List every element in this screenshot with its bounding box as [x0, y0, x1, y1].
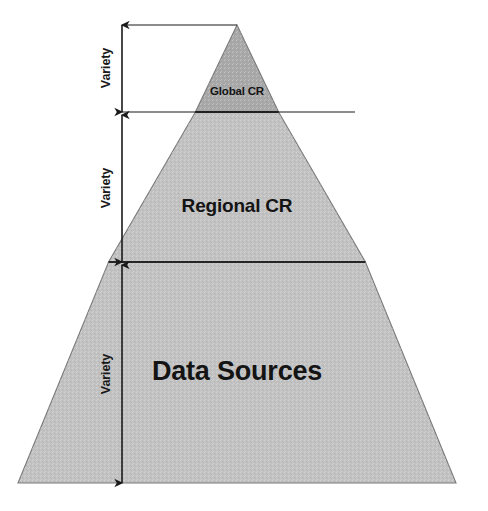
- dimension-label-variety-2-text: Variety: [99, 168, 113, 208]
- pyramid-diagram-canvas: Global CR Regional CR Data Sources Varie…: [0, 0, 488, 511]
- dimension-label-variety-1-text: Variety: [99, 48, 113, 88]
- pyramid-layer-global-cr: [195, 25, 278, 112]
- dimension-label-variety-1: Variety: [86, 61, 126, 75]
- layer-label-data-sources: Data Sources: [152, 356, 322, 387]
- dimension-label-variety-3-text: Variety: [99, 354, 113, 394]
- layer-label-regional-cr: Regional CR: [182, 195, 293, 217]
- regional-cr-texture: [109, 112, 366, 262]
- dimension-label-variety-3: Variety: [86, 367, 126, 381]
- layer-label-global-cr: Global CR: [210, 85, 264, 97]
- global-cr-texture: [195, 25, 278, 112]
- dimension-label-variety-2: Variety: [86, 181, 126, 195]
- pyramid-diagram-svg: [0, 0, 488, 511]
- pyramid-layer-regional-cr: [109, 112, 366, 262]
